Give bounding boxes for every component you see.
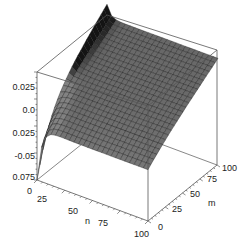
n-tick-label: 50 xyxy=(68,206,78,216)
tick-mark xyxy=(113,209,115,211)
tick-mark xyxy=(155,215,157,216)
tick-mark xyxy=(193,185,195,186)
z-axis-labels: 0.025 0.0 0.025 -0.05 0.075 xyxy=(12,82,35,182)
tick-mark xyxy=(183,193,186,195)
m-tick-label: 50 xyxy=(190,189,200,199)
tick-mark xyxy=(124,213,126,215)
z-tick-label: 0.025 xyxy=(12,128,35,138)
tick-mark xyxy=(169,204,171,205)
z-tick-label: 0.025 xyxy=(12,82,35,92)
tick-mark xyxy=(80,196,82,198)
tick-mark xyxy=(97,203,99,205)
tick-mark xyxy=(135,217,137,219)
tick-mark xyxy=(172,201,174,202)
z-tick-label: 0.0 xyxy=(22,105,35,115)
tick-mark xyxy=(203,176,205,177)
tick-mark xyxy=(186,190,188,191)
tick-mark xyxy=(85,198,87,200)
m-axis-title: m xyxy=(208,198,216,208)
m-tick-label: 0 xyxy=(158,222,163,232)
tick-mark xyxy=(196,182,198,183)
tick-mark xyxy=(151,218,153,219)
tick-mark xyxy=(62,190,65,193)
tick-mark xyxy=(179,196,181,197)
tick-mark xyxy=(176,199,178,200)
n-tick-label: 25 xyxy=(37,194,47,204)
tick-mark xyxy=(108,207,110,209)
tick-mark xyxy=(165,207,168,209)
tick-mark xyxy=(217,165,220,167)
tick-mark xyxy=(214,168,216,169)
m-axis-labels: 0 25 50 75 100 xyxy=(158,163,237,232)
n-axis-title: n xyxy=(85,216,90,226)
m-tick-label: 100 xyxy=(222,163,237,173)
tick-mark xyxy=(52,186,54,188)
tick-mark xyxy=(158,213,160,214)
tick-mark xyxy=(47,184,49,186)
tick-mark xyxy=(200,179,203,181)
surface-cell xyxy=(37,138,45,180)
tick-mark xyxy=(102,205,104,207)
tick-mark xyxy=(90,201,93,204)
tick-mark xyxy=(145,221,148,224)
tick-mark xyxy=(141,219,143,221)
origin-label: 0 xyxy=(27,186,32,196)
tick-mark xyxy=(162,210,164,211)
tick-mark xyxy=(148,221,151,223)
z-tick-label: -0.05 xyxy=(14,151,35,161)
tick-mark xyxy=(130,215,132,217)
tick-mark xyxy=(58,188,60,190)
m-tick-label: 25 xyxy=(172,204,182,214)
tick-mark xyxy=(117,211,120,214)
tick-mark xyxy=(210,171,212,172)
tick-mark xyxy=(41,182,43,184)
m-tick-label: 75 xyxy=(207,174,217,184)
surface-plot: 0.025 0.0 0.025 -0.05 0.075 0 25 50 75 1… xyxy=(0,0,249,241)
surface-mesh xyxy=(37,4,218,180)
n-tick-label: 100 xyxy=(134,229,149,239)
tick-mark xyxy=(69,192,71,194)
n-tick-label: 75 xyxy=(98,218,108,228)
z-tick-label: 0.075 xyxy=(12,172,35,182)
tick-mark xyxy=(74,194,76,196)
